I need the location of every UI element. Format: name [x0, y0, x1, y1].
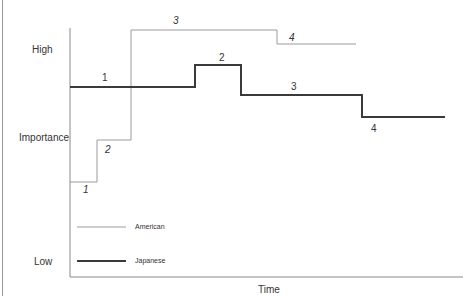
american-step-label-4: 4	[289, 32, 295, 43]
japanese-step-label-2: 2	[219, 52, 225, 63]
chart-canvas	[0, 0, 463, 296]
japanese-step-label-4: 4	[371, 123, 377, 134]
japanese-step-label-1: 1	[102, 72, 108, 83]
american-step-label-2: 2	[105, 144, 111, 155]
series-american	[70, 30, 356, 182]
american-step-label-1: 1	[83, 184, 89, 195]
legend-japanese-label: Japanese	[135, 257, 165, 264]
american-step-label-3: 3	[173, 15, 179, 26]
x-axis-title: Time	[258, 284, 280, 295]
y-tick-high: High	[32, 44, 53, 55]
legend-american-label: American	[135, 223, 165, 230]
japanese-step-label-3: 3	[291, 81, 297, 92]
y-tick-low: Low	[34, 256, 52, 267]
series-japanese	[70, 65, 445, 117]
y-axis-title: Importance	[19, 132, 69, 143]
